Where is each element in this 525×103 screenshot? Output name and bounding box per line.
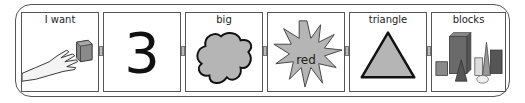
- number-three: 3: [104, 23, 180, 83]
- blob-shape-icon: [186, 13, 262, 91]
- red-label: red: [268, 53, 344, 67]
- panel-big[interactable]: big: [185, 12, 263, 92]
- panel-number[interactable]: 3: [103, 12, 181, 92]
- starburst-icon: [268, 13, 344, 91]
- panel-blocks[interactable]: blocks: [431, 12, 506, 92]
- triangle-icon: [350, 13, 426, 91]
- panel-triangle[interactable]: triangle: [349, 12, 427, 92]
- hand-reaching-cube-icon: [22, 13, 98, 91]
- blocks-icon: [432, 13, 505, 91]
- panel-i-want[interactable]: I want: [21, 12, 99, 92]
- panel-red[interactable]: red: [267, 12, 345, 92]
